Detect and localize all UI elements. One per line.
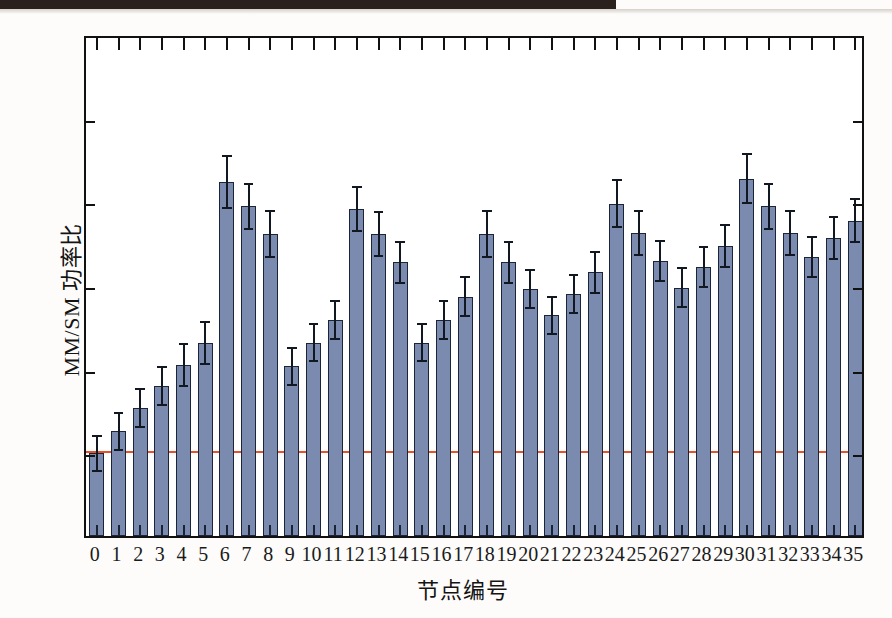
bar-node-30 <box>739 179 754 536</box>
x-tick-4 <box>183 525 185 536</box>
bar-node-15 <box>414 343 429 536</box>
top-tick-14 <box>399 38 401 50</box>
bar-node-19 <box>501 262 516 536</box>
x-tick-6 <box>226 525 228 536</box>
error-bar-node-30 <box>746 155 748 204</box>
bar-node-35 <box>848 221 863 536</box>
top-tick-26 <box>659 38 661 50</box>
figure-canvas: MM/SM 功率比 0.91.01.11.21.31.41.5 01234567… <box>0 0 892 618</box>
x-tick-label-17: 17 <box>453 541 473 567</box>
x-tick-label-34: 34 <box>822 541 842 567</box>
error-bar-node-19 <box>508 242 510 282</box>
top-tick-0 <box>96 38 98 50</box>
error-cap-upper-node-23 <box>590 251 599 253</box>
top-tick-16 <box>443 38 445 50</box>
x-tick-27 <box>681 525 683 536</box>
x-tick-label-13: 13 <box>367 541 387 567</box>
top-tick-11 <box>334 38 336 50</box>
bar-node-17 <box>458 297 473 536</box>
bar-node-4 <box>176 365 191 536</box>
x-tick-label-31: 31 <box>757 541 777 567</box>
bar-node-7 <box>241 206 256 536</box>
error-bar-node-18 <box>486 211 488 256</box>
error-cap-lower-node-20 <box>525 307 534 309</box>
x-tick-13 <box>378 525 380 536</box>
bar-node-16 <box>436 320 451 536</box>
bar-node-3 <box>154 386 169 536</box>
bar-node-11 <box>328 320 343 536</box>
bar-node-6 <box>219 182 234 536</box>
bar-node-31 <box>761 206 776 536</box>
bar-node-8 <box>263 234 278 536</box>
x-tick-label-33: 33 <box>800 541 820 567</box>
y-tick-1.0 <box>86 455 95 457</box>
x-tick-9 <box>291 525 293 536</box>
error-cap-lower-node-18 <box>482 256 491 258</box>
x-tick-label-26: 26 <box>648 541 668 567</box>
x-tick-14 <box>399 525 401 536</box>
x-tick-label-15: 15 <box>410 541 430 567</box>
x-tick-label-23: 23 <box>583 541 603 567</box>
error-cap-lower-node-10 <box>309 360 318 362</box>
error-cap-upper-node-11 <box>330 300 339 302</box>
top-tick-5 <box>204 38 206 50</box>
x-tick-label-19: 19 <box>497 541 517 567</box>
error-bar-node-3 <box>161 367 163 405</box>
error-cap-upper-node-35 <box>850 198 859 200</box>
x-tick-3 <box>161 525 163 536</box>
top-tick-25 <box>638 38 640 50</box>
error-bar-node-25 <box>638 211 640 255</box>
x-axis-tick-labels: 0123456789101112131415161718192021222324… <box>84 541 864 571</box>
bar-node-34 <box>826 238 841 536</box>
y-tick-right-1.0 <box>853 455 862 457</box>
x-tick-11 <box>334 525 336 536</box>
bar-node-23 <box>588 272 603 536</box>
y-tick-right-1.1 <box>853 372 862 374</box>
error-cap-upper-node-8 <box>265 210 274 212</box>
bar-node-18 <box>479 234 494 536</box>
error-cap-upper-node-24 <box>612 179 621 181</box>
error-cap-lower-node-9 <box>287 384 296 386</box>
error-cap-lower-node-27 <box>677 306 686 308</box>
error-cap-upper-node-9 <box>287 347 296 349</box>
top-tick-1 <box>118 38 120 50</box>
x-tick-8 <box>269 525 271 536</box>
top-tick-20 <box>529 38 531 50</box>
error-bar-node-26 <box>659 241 661 281</box>
error-cap-upper-node-30 <box>742 153 751 155</box>
bar-node-33 <box>804 257 819 536</box>
x-tick-26 <box>659 525 661 536</box>
top-tick-2 <box>139 38 141 50</box>
error-cap-upper-node-7 <box>244 183 253 185</box>
bar-node-10 <box>306 343 321 536</box>
top-tick-10 <box>313 38 315 50</box>
x-tick-label-8: 8 <box>263 541 273 567</box>
x-tick-17 <box>464 525 466 536</box>
error-bar-node-28 <box>703 247 705 287</box>
y-tick-1.4 <box>86 121 95 123</box>
error-cap-lower-node-2 <box>135 426 144 428</box>
x-tick-label-1: 1 <box>112 541 122 567</box>
y-axis-title: MM/SM 功率比 <box>53 223 85 376</box>
error-cap-lower-node-7 <box>244 228 253 230</box>
x-tick-28 <box>703 525 705 536</box>
error-bar-node-7 <box>248 184 250 229</box>
error-cap-lower-node-32 <box>785 254 794 256</box>
error-cap-upper-node-13 <box>374 211 383 213</box>
error-cap-lower-node-33 <box>807 276 816 278</box>
y-tick-right-1.3 <box>853 204 862 206</box>
x-tick-33 <box>811 525 813 536</box>
error-bar-node-10 <box>313 324 315 361</box>
top-tick-4 <box>183 38 185 50</box>
error-bar-node-15 <box>421 324 423 361</box>
x-tick-24 <box>616 525 618 536</box>
error-bar-node-24 <box>616 180 618 227</box>
x-tick-30 <box>746 525 748 536</box>
bar-node-24 <box>609 204 624 536</box>
y-tick-1.3 <box>86 204 95 206</box>
error-cap-lower-node-34 <box>829 258 838 260</box>
x-tick-1 <box>118 525 120 536</box>
top-tick-34 <box>833 38 835 50</box>
error-cap-lower-node-12 <box>352 230 361 232</box>
x-tick-label-24: 24 <box>605 541 625 567</box>
